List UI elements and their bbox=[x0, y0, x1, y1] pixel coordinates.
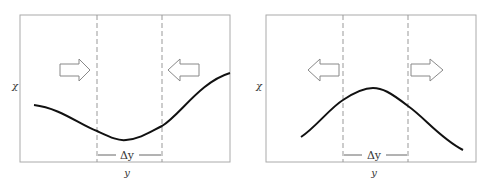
y-axis-label: χ bbox=[255, 80, 263, 91]
x-axis-label: y bbox=[123, 167, 130, 178]
x-axis-label: y bbox=[370, 167, 377, 178]
arrow-right-icon bbox=[411, 59, 443, 81]
arrow-right-icon bbox=[60, 59, 90, 81]
curve-minimum bbox=[34, 73, 230, 140]
diagram: Δy χ y Δy χ y bbox=[0, 0, 485, 189]
curve-maximum bbox=[301, 88, 463, 150]
interval-label: Δy bbox=[367, 149, 382, 162]
y-axis-label: χ bbox=[11, 80, 19, 91]
arrow-left-icon bbox=[308, 59, 339, 81]
panel-right: Δy χ y bbox=[255, 15, 476, 178]
panel-left: Δy χ y bbox=[11, 15, 230, 178]
interval-label: Δy bbox=[120, 149, 135, 162]
arrow-left-icon bbox=[168, 59, 199, 81]
